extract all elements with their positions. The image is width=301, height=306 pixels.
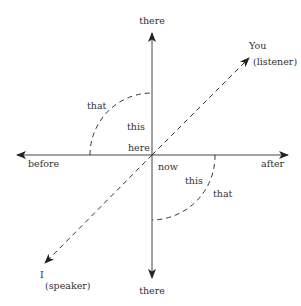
label-listener: (listener): [253, 56, 297, 67]
diagonal-axis-down: [45, 155, 152, 263]
label-here: here: [128, 142, 150, 153]
label-there-bottom: there: [139, 285, 165, 296]
deixis-diagram: there there before after You (listener) …: [0, 0, 301, 306]
label-upper-this: this: [127, 121, 145, 132]
label-i: I: [40, 269, 44, 280]
label-speaker: (speaker): [45, 280, 91, 291]
label-lower-this: this: [185, 175, 203, 186]
label-before: before: [28, 158, 59, 169]
label-lower-that: that: [213, 188, 233, 199]
label-after: after: [261, 158, 285, 169]
label-there-top: there: [139, 15, 165, 26]
label-you: You: [248, 40, 266, 51]
label-now: now: [158, 161, 178, 172]
diagonal-axis-up: [152, 58, 249, 155]
label-upper-that: that: [87, 100, 107, 111]
